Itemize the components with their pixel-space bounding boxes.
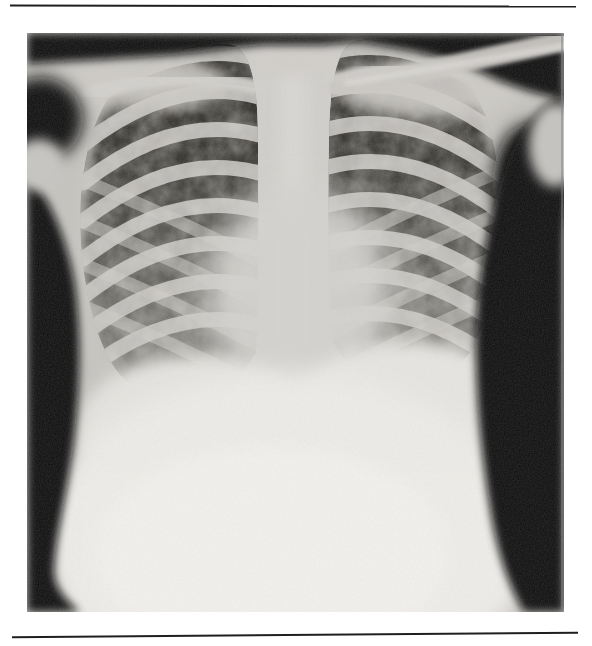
page [0,0,592,646]
print-grain-overlay [27,33,564,612]
chest-xray-image [27,33,564,612]
xray-svg [27,33,564,612]
bottom-rule [12,632,578,638]
top-rule [10,4,576,7]
